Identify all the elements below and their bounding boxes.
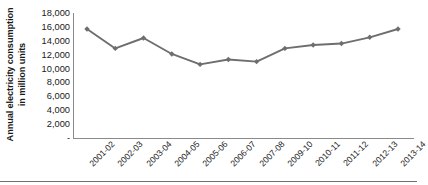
- series-line: [87, 29, 398, 64]
- data-point-marker: [367, 35, 372, 40]
- y-axis-tick: 16,000: [24, 22, 70, 32]
- data-point-marker: [395, 26, 400, 31]
- y-axis-title-line-1: Annual electricity consumption: [5, 7, 17, 143]
- data-point-marker: [197, 62, 202, 67]
- y-axis-tick: 14,000: [24, 36, 70, 46]
- y-axis-tick: 8,000: [24, 77, 70, 87]
- data-point-marker: [226, 57, 231, 62]
- y-axis-tick: 12,000: [24, 50, 70, 60]
- x-axis-tick: 2013-14: [398, 139, 427, 168]
- y-axis-tick: 10,000: [24, 64, 70, 74]
- y-axis-tick: -: [24, 133, 70, 143]
- x-axis-tick: 2010-11: [313, 139, 342, 168]
- x-axis-tick: 2007-08: [257, 139, 286, 168]
- x-axis-tick: 2011-12: [342, 139, 371, 168]
- x-axis-tick-labels: 2001-022002-032003-042004-052005-062006-…: [73, 139, 417, 185]
- data-point-marker: [339, 41, 344, 46]
- y-axis-tick-labels: 18,00016,00014,00012,00010,0008,0006,000…: [24, 0, 70, 150]
- x-axis-tick: 2006-07: [229, 139, 258, 168]
- x-axis-tick: 2009-10: [285, 139, 314, 168]
- plot-area: [73, 13, 414, 138]
- x-axis-tick: 2001-02: [87, 139, 116, 168]
- y-axis-tick: 4,000: [24, 105, 70, 115]
- x-axis-tick: 2003-04: [144, 139, 173, 168]
- y-axis-tick: 6,000: [24, 91, 70, 101]
- x-axis-tick: 2005-06: [200, 139, 229, 168]
- y-axis-tick: 18,000: [24, 8, 70, 18]
- x-axis-tick: 2002-03: [116, 139, 145, 168]
- line-series: [73, 13, 414, 138]
- y-axis-tick: 2,000: [24, 119, 70, 129]
- x-axis-tick: 2004-05: [172, 139, 201, 168]
- x-axis-tick: 2012-13: [370, 139, 399, 168]
- data-point-marker: [310, 42, 315, 47]
- bottom-divider: [0, 181, 417, 182]
